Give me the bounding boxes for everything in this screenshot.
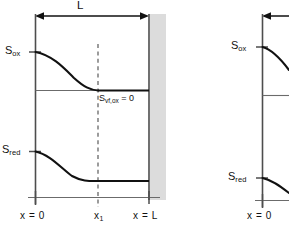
label-s-ox-right: Sox: [231, 40, 246, 53]
label-s-ox-left: Sox: [5, 45, 20, 58]
curve-s-red-right: [263, 178, 290, 193]
label-s-vf-eq: = 0: [119, 93, 134, 103]
label-s-vf-sub: vf,ox: [105, 97, 119, 104]
label-s-red-right-sub: red: [235, 175, 246, 184]
electrode-wall-block: [150, 14, 166, 200]
span-arrow-right-panel: [262, 12, 289, 20]
axis-label-x-equals-zero-left: x = 0: [20, 211, 45, 221]
label-s-red-left-sub: red: [9, 148, 20, 157]
axis-label-x-one-sub: 1: [100, 215, 105, 222]
label-s-vf-ox-equals-zero: Svf,ox = 0: [99, 94, 134, 104]
axis-label-x-one: x1: [94, 211, 104, 222]
label-s-ox-right-sub: ox: [238, 44, 246, 53]
figure-root: L Sox Sred Svf,ox = 0 x = 0 x1 x = L Sox…: [0, 0, 289, 230]
right-panel-group: [255, 12, 289, 208]
label-s-red-right: Sred: [228, 171, 246, 184]
label-L: L: [77, 0, 83, 12]
curve-s-ox-left: [36, 52, 99, 91]
curve-s-ox-right: [263, 47, 290, 70]
label-s-red-left: Sred: [2, 144, 20, 157]
curve-s-red-left: [36, 152, 99, 182]
span-arrow-L: [35, 12, 149, 20]
left-panel-group: [28, 12, 166, 207]
figure-canvas: [0, 0, 289, 230]
axis-label-x-equals-L: x = L: [133, 211, 158, 221]
axis-label-x-equals-zero-right: x = 0: [247, 211, 272, 221]
label-s-ox-left-sub: ox: [12, 49, 20, 58]
